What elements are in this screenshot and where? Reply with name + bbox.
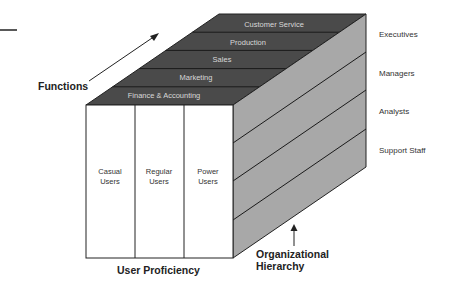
function-label: Finance & Accounting [128,91,201,100]
function-label: Marketing [180,73,213,82]
hierarchy-arrow-icon [291,224,298,246]
user-level-label: Power Users [184,167,232,187]
org-hierarchy-axis-label: Organizational Hierarchy [256,248,329,272]
function-label: Customer Service [244,20,304,29]
cube-diagram [0,0,449,287]
hierarchy-label: Executives [379,30,418,39]
hierarchy-label: Managers [379,69,415,78]
function-label: Sales [213,55,232,64]
hierarchy-label: Analysts [379,107,409,116]
hierarchy-label: Support Staff [379,146,426,155]
functions-axis-label: Functions [38,80,88,92]
user-proficiency-axis-label: User Proficiency [117,264,200,276]
function-label: Production [230,38,266,47]
user-level-label: Regular Users [135,167,183,187]
user-level-label: Casual Users [86,167,134,187]
